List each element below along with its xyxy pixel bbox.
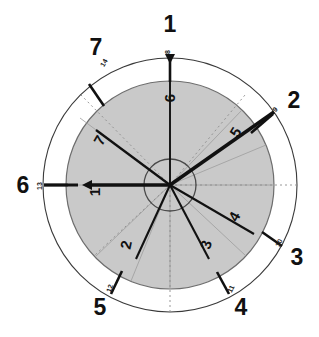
outer-label-2: 2 (288, 87, 301, 113)
tick-label-8: 8 (164, 50, 171, 54)
outer-label-1: 1 (164, 11, 177, 37)
inner-label-6: 6 (161, 94, 178, 102)
outer-label-4: 4 (235, 294, 248, 320)
outer-label-7: 7 (90, 34, 103, 60)
outer-label-5: 5 (94, 294, 107, 320)
inner-label-1: 1 (86, 188, 103, 196)
diagram-canvas: 1 2 3 4 5 6 7 8 9 10 11 12 13 14 6 5 4 3… (0, 0, 319, 337)
outer-label-6: 6 (17, 172, 30, 198)
tick-label-13: 13 (36, 182, 43, 190)
outer-label-3: 3 (291, 244, 304, 270)
